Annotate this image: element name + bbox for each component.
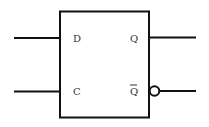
d-flip-flop-diagram: D C Q Q bbox=[0, 0, 209, 127]
inversion-bubble-icon bbox=[150, 86, 160, 96]
flip-flop-body bbox=[60, 12, 149, 118]
label-d: D bbox=[73, 33, 81, 44]
label-c: C bbox=[73, 86, 81, 97]
label-q-bar: Q bbox=[130, 86, 138, 97]
label-q: Q bbox=[130, 33, 138, 44]
